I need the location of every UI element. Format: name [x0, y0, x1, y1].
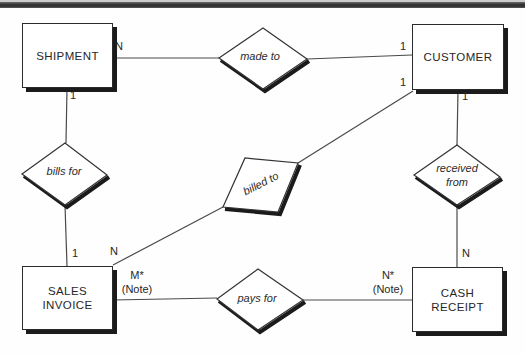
cardinality-shipment-bills-for: 1 [70, 89, 76, 103]
line-shipment-bills-for [66, 88, 67, 143]
line-sales-invoice-pays-for [113, 298, 217, 300]
line-customer-billed-to [298, 91, 413, 163]
line-bills-for-sales-invoice [65, 205, 67, 266]
received-from-label: received from [436, 162, 478, 189]
entity-shipment: SHIPMENT [22, 23, 113, 88]
cardinality-sales-invoice-pays-for-note: M* (Note) [122, 269, 153, 296]
cardinality-customer-made-to: 1 [400, 40, 406, 54]
entity-sales-invoice: SALES INVOICE [22, 266, 113, 330]
entity-cash-receipt: CASH RECEIPT [412, 267, 503, 332]
line-billed-to-sales-invoice [113, 207, 223, 265]
cardinality-sales-invoice-billed-to: N [110, 245, 118, 259]
cardinality-cash-receipt-received-from: N [462, 247, 470, 261]
cardinality-customer-received-from: 1 [462, 90, 468, 104]
entity-customer-label: CUSTOMER [424, 50, 493, 64]
bills-for-label: bills for [47, 165, 82, 179]
entity-customer: CUSTOMER [412, 24, 504, 90]
entity-sales-invoice-label: SALES INVOICE [42, 284, 92, 312]
er-diagram-figure: SHIPMENT CUSTOMER SALES INVOICE CASH REC… [0, 0, 525, 355]
cardinality-shipment-made-to: N [115, 40, 123, 54]
entity-shipment-label: SHIPMENT [36, 49, 99, 63]
cardinality-customer-billed-to: 1 [400, 76, 406, 90]
pays-for-label: pays for [237, 292, 276, 306]
made-to-label: made to [240, 50, 280, 64]
line-customer-received-from [457, 90, 458, 145]
entity-cash-receipt-label: CASH RECEIPT [431, 286, 484, 314]
line-made-to-customer [307, 55, 412, 59]
cardinality-cash-receipt-pays-for-note: N* (Note) [373, 269, 404, 296]
cardinality-sales-invoice-bills-for: 1 [72, 247, 78, 261]
